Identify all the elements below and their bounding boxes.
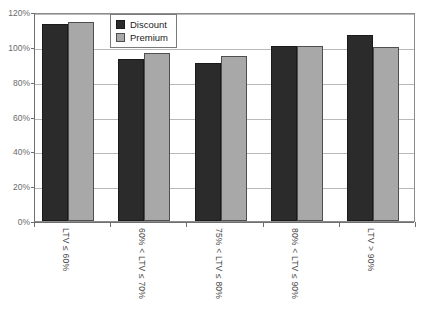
x-tick-mark (186, 222, 187, 227)
legend-label-discount: Discount (130, 19, 167, 30)
bar-chart: 120%100%80%60%40%20%0% Discount Premium … (0, 0, 435, 309)
x-category-label-0: LTV ≤ 60% (61, 228, 71, 271)
x-category-label-2: 75% < LTV ≤ 80% (214, 228, 224, 299)
x-tick-mark (415, 222, 416, 227)
x-tick-mark (339, 222, 340, 227)
x-category-label-3: 80% < LTV ≤ 90% (290, 228, 300, 299)
y-tick-mark (31, 118, 35, 119)
y-tick-mark (31, 48, 35, 49)
legend-swatch-discount (116, 20, 125, 29)
legend-item-premium: Premium (116, 31, 168, 44)
x-category-label-4: LTV > 90% (366, 228, 376, 271)
x-axis-labels: LTV ≤ 60%60% < LTV ≤ 70%75% < LTV ≤ 80%8… (0, 228, 435, 309)
y-tick-label: 60% (0, 113, 30, 123)
x-tick-mark (263, 222, 264, 227)
x-category-label-1: 60% < LTV ≤ 70% (137, 228, 147, 299)
x-tick-mark-origin (34, 222, 35, 227)
y-tick-label: 0% (0, 217, 30, 227)
y-tick-label: 80% (0, 78, 30, 88)
chart-legend: Discount Premium (110, 14, 177, 48)
y-tick-label: 40% (0, 147, 30, 157)
legend-swatch-premium (116, 33, 125, 42)
y-tick-label: 100% (0, 43, 30, 53)
legend-item-discount: Discount (116, 18, 168, 31)
y-tick-mark (31, 83, 35, 84)
x-tick-mark (110, 222, 111, 227)
legend-label-premium: Premium (130, 32, 168, 43)
y-tick-mark (31, 152, 35, 153)
y-tick-label: 20% (0, 182, 30, 192)
y-tick-mark (31, 13, 35, 14)
y-tick-label: 120% (0, 8, 30, 18)
y-tick-mark (31, 187, 35, 188)
